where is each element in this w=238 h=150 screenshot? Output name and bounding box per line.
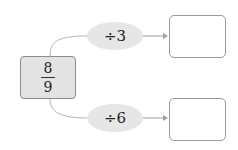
result-box-bottom[interactable]	[169, 98, 226, 141]
fraction-bar	[41, 77, 55, 78]
operation-divide-3: ÷3	[87, 22, 143, 50]
fraction-numerator: 8	[44, 61, 53, 75]
operation-divide-6: ÷6	[87, 104, 143, 132]
result-box-top[interactable]	[169, 15, 226, 58]
fraction-denominator: 9	[44, 80, 53, 94]
start-fraction-box: 8 9	[20, 56, 76, 99]
